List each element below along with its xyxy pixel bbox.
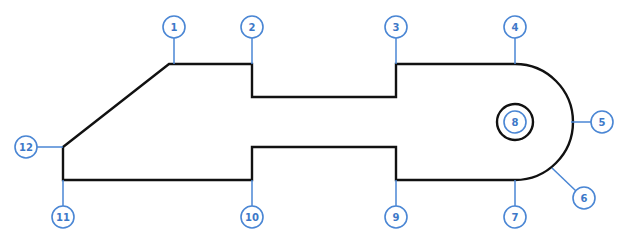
callout-3: 3 xyxy=(385,16,407,38)
callout-5: 5 xyxy=(591,111,613,133)
part-diagram: 1 2 3 4 5 6 7 8 9 10 11 12 xyxy=(0,0,625,243)
svg-text:2: 2 xyxy=(249,22,256,33)
svg-text:4: 4 xyxy=(512,22,519,33)
svg-text:9: 9 xyxy=(393,212,400,223)
svg-text:6: 6 xyxy=(581,193,588,204)
svg-text:8: 8 xyxy=(512,117,519,128)
svg-text:11: 11 xyxy=(56,212,70,223)
svg-text:7: 7 xyxy=(512,212,519,223)
callout-6: 6 xyxy=(573,187,595,209)
svg-text:5: 5 xyxy=(599,117,606,128)
callout-9: 9 xyxy=(385,206,407,228)
callout-12: 12 xyxy=(15,136,37,158)
svg-text:3: 3 xyxy=(393,22,400,33)
svg-text:1: 1 xyxy=(171,22,178,33)
callout-1: 1 xyxy=(163,16,185,38)
callout-8: 8 xyxy=(504,111,526,133)
callout-11: 11 xyxy=(52,206,74,228)
callout-7: 7 xyxy=(504,206,526,228)
callout-10: 10 xyxy=(241,206,263,228)
svg-text:10: 10 xyxy=(245,212,259,223)
callout-4: 4 xyxy=(504,16,526,38)
callout-2: 2 xyxy=(241,16,263,38)
svg-text:12: 12 xyxy=(19,142,33,153)
